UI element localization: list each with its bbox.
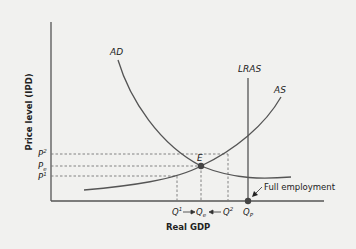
full-employment-point — [245, 198, 251, 204]
p1-label: P1 — [38, 171, 47, 182]
full-employment-pointer — [252, 187, 262, 197]
qp-label: QP — [243, 207, 254, 218]
full-employment-label: Full employment — [264, 182, 336, 192]
equilibrium-label: E — [197, 153, 203, 163]
as-curve — [84, 97, 281, 190]
y-axis-title: Price level (IPD) — [24, 73, 34, 150]
as-label: AS — [273, 85, 286, 95]
arrowhead-left-icon — [209, 210, 213, 214]
p2-label: P2 — [38, 148, 47, 159]
ad-as-diagram: AD LRAS AS E Price level (IPD) P2 Pe P1 … — [0, 0, 356, 249]
q2-label: Q2 — [223, 206, 234, 217]
qe-label: Qe — [196, 207, 207, 218]
x-axis-title: Real GDP — [166, 222, 210, 232]
q1-label: Q1 — [172, 206, 182, 217]
lras-label: LRAS — [238, 64, 261, 74]
equilibrium-point — [198, 163, 204, 169]
price-labels: P2 Pe P1 — [38, 148, 47, 182]
arrowhead-right-icon — [191, 210, 195, 214]
ad-label: AD — [109, 47, 123, 57]
